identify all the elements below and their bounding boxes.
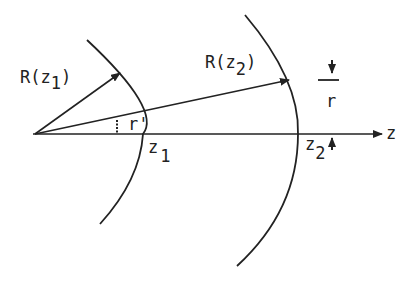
label-r: r — [326, 91, 336, 111]
label-z-axis: z — [386, 123, 396, 143]
label-r-prime: r' — [128, 114, 148, 134]
label-R-z2: R(z2) — [205, 52, 256, 79]
label-z1: z1 — [148, 137, 171, 166]
wavefront-diagram: R(z1) R(z2) r' z1 z2 r z — [0, 0, 415, 288]
label-R-z1: R(z1) — [20, 67, 71, 93]
label-z2: z2 — [305, 134, 326, 163]
